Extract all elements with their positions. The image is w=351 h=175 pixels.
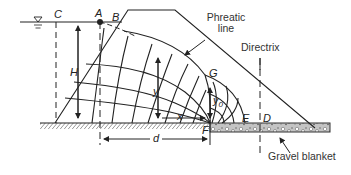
phreatic-entry-dashed xyxy=(100,22,135,36)
gravel-blanket xyxy=(210,123,330,132)
phreatic-line-label: Phreatic line xyxy=(203,12,249,34)
label-d-point: D xyxy=(263,113,271,124)
dam-flow-net-diagram xyxy=(0,0,351,175)
gravel-blanket-label: Gravel blanket xyxy=(268,151,336,162)
label-y0: y0 xyxy=(213,95,223,109)
label-y: y xyxy=(153,86,159,97)
label-g: G xyxy=(209,68,218,79)
directrix-label: Directrix xyxy=(241,42,280,53)
ground-hatching xyxy=(40,123,210,129)
label-d-distance: d xyxy=(153,133,159,144)
label-x: x xyxy=(177,111,183,122)
downstream-flow-net xyxy=(205,75,245,123)
label-b: B xyxy=(112,12,119,23)
label-c: C xyxy=(54,9,62,20)
label-h: H xyxy=(70,67,78,78)
label-e: E xyxy=(242,113,249,124)
flow-lines xyxy=(65,31,210,123)
phreatic-line-leader xyxy=(185,40,205,55)
label-a: A xyxy=(95,8,102,19)
label-f: F xyxy=(202,125,209,136)
